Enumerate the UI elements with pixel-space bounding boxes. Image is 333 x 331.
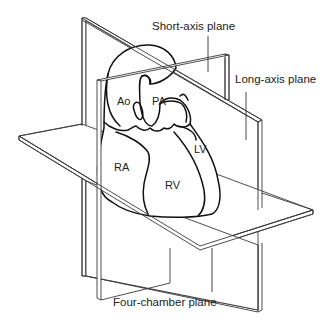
heart-planes-diagram	[0, 0, 333, 331]
aorta-label: Ao	[117, 96, 130, 107]
right-atrium-label: RA	[114, 162, 129, 173]
long-axis-plane-label: Long-axis plane	[235, 74, 316, 86]
left-ventricle-label: LV	[194, 144, 207, 155]
four-chamber-plane-label: Four-chamber plane	[113, 297, 217, 309]
right-ventricle-label: RV	[165, 180, 180, 191]
pulmonary-artery-label: PA	[152, 96, 166, 107]
short-axis-plane-label: Short-axis plane	[152, 21, 235, 33]
